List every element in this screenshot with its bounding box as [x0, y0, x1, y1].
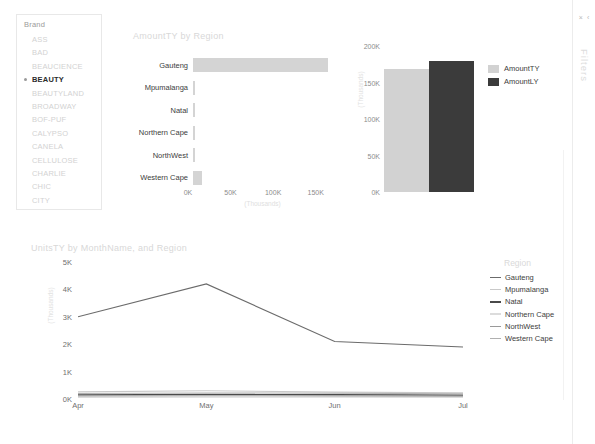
line-x-axis: AprMayJunJul: [78, 401, 463, 413]
legend-title: Region: [504, 258, 554, 268]
bar-fill[interactable]: [193, 126, 195, 140]
bar-row[interactable]: Mpumalanga: [122, 77, 337, 100]
legend-line-swatch: [490, 338, 501, 339]
slicer-item-charlie[interactable]: CHARLIE: [23, 167, 95, 180]
bar-category-label: Natal: [122, 106, 193, 115]
slicer-item-label: CANELA: [32, 140, 63, 153]
units-ty-by-month-region-chart[interactable]: (Thousands) 0K1K2K3K4K5K AprMayJunJul Re…: [28, 240, 573, 425]
line-y-axis-tick: 0K: [63, 395, 72, 404]
slicer-item-label: CHARLIE: [32, 167, 66, 180]
bar-row[interactable]: Natal: [122, 99, 337, 122]
legend-item[interactable]: NorthWest: [490, 322, 554, 331]
legend-label: Natal: [505, 297, 523, 306]
pane-divider: [563, 150, 564, 400]
column-axis-tick: 150K: [364, 79, 380, 86]
legend-item[interactable]: AmountTY: [488, 64, 539, 73]
slicer-item-beautyland[interactable]: BEAUTYLAND: [23, 87, 95, 100]
slicer-item-bad[interactable]: BAD: [23, 46, 95, 59]
close-icon[interactable]: ×: [579, 14, 583, 21]
bar-category-label: NorthWest: [122, 151, 193, 160]
legend-line-swatch: [490, 326, 501, 327]
legend-line-swatch: [490, 313, 501, 314]
slicer-item-calypso[interactable]: CALYPSO: [23, 127, 95, 140]
column-y-axis: 0K50K100K150K200K: [354, 46, 380, 192]
bar-track: [193, 99, 337, 122]
line-y-axis-tick: 3K: [63, 312, 72, 321]
legend-item[interactable]: Gauteng: [490, 273, 554, 282]
bar-track: [193, 77, 337, 100]
bar-row[interactable]: NorthWest: [122, 144, 337, 167]
line-series-natal[interactable]: [78, 394, 463, 395]
radio-selected-icon: [24, 78, 27, 81]
slicer-item-cellulose[interactable]: CELLULOSE: [23, 154, 95, 167]
legend-swatch: [488, 78, 499, 86]
line-legend[interactable]: Region GautengMpumalangaNatalNorthern Ca…: [490, 258, 554, 346]
bar-row[interactable]: Gauteng: [122, 54, 337, 77]
slicer-item-city[interactable]: CITY: [23, 194, 95, 207]
report-canvas: Brand ASSBADBEAUCIENCEBEAUTYBEAUTYLANDBR…: [0, 0, 595, 444]
line-y-axis-tick: 4K: [63, 285, 72, 294]
slicer-item-broadway[interactable]: BROADWAY: [23, 100, 95, 113]
line-y-axis-tick: 1K: [63, 367, 72, 376]
legend-line-swatch: [490, 301, 501, 302]
bar-category-label: Gauteng: [122, 61, 193, 70]
bar-fill[interactable]: [193, 148, 195, 162]
bar-fill[interactable]: [193, 58, 328, 72]
legend-item[interactable]: AmountLY: [488, 77, 539, 86]
bar-row[interactable]: Northern Cape: [122, 122, 337, 145]
legend-item[interactable]: Natal: [490, 297, 554, 306]
bar-track: [193, 54, 337, 77]
legend-label: Northern Cape: [505, 310, 554, 319]
slicer-item-chic[interactable]: CHIC: [23, 180, 95, 193]
slicer-item-label: BROADWAY: [32, 100, 77, 113]
legend-line-swatch: [490, 289, 501, 290]
line-x-axis-tick: Apr: [72, 401, 84, 410]
bar-row[interactable]: Western Cape: [122, 167, 337, 190]
legend-label: NorthWest: [505, 322, 540, 331]
bar-fill[interactable]: [193, 171, 202, 185]
line-series-northwest[interactable]: [78, 396, 463, 397]
slicer-item-ass[interactable]: ASS: [23, 33, 95, 46]
line-series-mpumalanga[interactable]: [78, 391, 463, 393]
column-bar[interactable]: [429, 61, 474, 192]
legend-item[interactable]: Northern Cape: [490, 310, 554, 319]
line-y-axis-tick: 2K: [63, 340, 72, 349]
amount-ty-vs-ly-chart[interactable]: (Thousands) 0K50K100K150K200K AmountTYAm…: [348, 46, 578, 216]
line-series-gauteng[interactable]: [78, 284, 463, 347]
bar-axis-tick: 100K: [265, 189, 281, 196]
column-axis-tick: 100K: [364, 116, 380, 123]
column-axis-tick: 0K: [371, 189, 380, 196]
line-series-group: [78, 262, 463, 399]
chevron-left-icon[interactable]: ‹: [587, 14, 589, 21]
legend-item[interactable]: Mpumalanga: [490, 285, 554, 294]
line-y-axis-tick: 5K: [63, 258, 72, 267]
line-series-western-cape[interactable]: [78, 393, 463, 394]
slicer-item-label: CELLULOSE: [32, 154, 78, 167]
legend-label: Gauteng: [505, 273, 534, 282]
column-bar[interactable]: [384, 69, 429, 192]
column-axis-tick: 200K: [364, 43, 380, 50]
legend-swatch: [488, 65, 499, 73]
legend-label: AmountLY: [504, 77, 538, 86]
line-x-axis-tick: Jul: [458, 401, 468, 410]
bar-track: [193, 144, 337, 167]
slicer-item-beaucience[interactable]: BEAUCIENCE: [23, 60, 95, 73]
brand-slicer[interactable]: Brand ASSBADBEAUCIENCEBEAUTYBEAUTYLANDBR…: [16, 14, 102, 210]
bar-fill[interactable]: [193, 81, 195, 95]
legend-item[interactable]: Western Cape: [490, 334, 554, 343]
column-legend[interactable]: AmountTYAmountLY: [488, 64, 539, 90]
amount-ty-by-region-chart[interactable]: GautengMpumalangaNatalNorthern CapeNorth…: [122, 28, 337, 208]
slicer-item-bof-puf[interactable]: BOF-PUF: [23, 113, 95, 126]
legend-label: Mpumalanga: [505, 285, 548, 294]
bar-category-label: Mpumalanga: [122, 83, 193, 92]
filters-pane[interactable]: × ‹ Filters: [572, 0, 595, 444]
slicer-item-canela[interactable]: CANELA: [23, 140, 95, 153]
bar-rows: GautengMpumalangaNatalNorthern CapeNorth…: [122, 54, 337, 189]
slicer-item-label: BAD: [32, 46, 48, 59]
slicer-item-beauty[interactable]: BEAUTY: [23, 73, 95, 86]
slicer-item-label: BEAUTYLAND: [32, 87, 84, 100]
bar-axis-tick: 0K: [184, 189, 193, 196]
bar-fill[interactable]: [193, 103, 195, 117]
slicer-item-label: BOF-PUF: [32, 113, 66, 126]
slicer-item-label: ASS: [32, 33, 48, 46]
